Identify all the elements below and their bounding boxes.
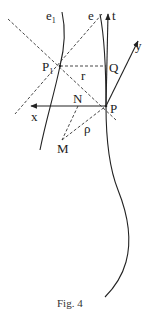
curve-e1 — [40, 12, 64, 150]
label-m: M — [57, 141, 69, 156]
label-n: N — [73, 91, 83, 106]
label-y: y — [135, 38, 142, 53]
dashed-line-p1-p — [8, 19, 116, 120]
label-t: t — [112, 8, 116, 23]
label-r: r — [81, 68, 86, 83]
point-p-dot — [105, 105, 108, 108]
dashed-line-through-p1 — [15, 14, 102, 114]
point-p1-dot — [59, 65, 62, 68]
dashed-segment-n-m — [62, 106, 78, 140]
label-e: e — [88, 8, 94, 23]
figure-caption: Fig. 4 — [57, 297, 83, 309]
t-axis-arrow — [106, 14, 108, 106]
curve-e — [100, 14, 129, 297]
label-q: Q — [109, 60, 119, 75]
figure-diagram: e1 e t y P1 Q r x N P ρ M Fig. 4 — [0, 0, 147, 313]
label-p: P — [110, 101, 117, 116]
label-rho: ρ — [84, 121, 91, 136]
label-x: x — [31, 109, 38, 124]
label-p1: P1 — [42, 59, 53, 76]
label-e1: e1 — [46, 8, 56, 25]
